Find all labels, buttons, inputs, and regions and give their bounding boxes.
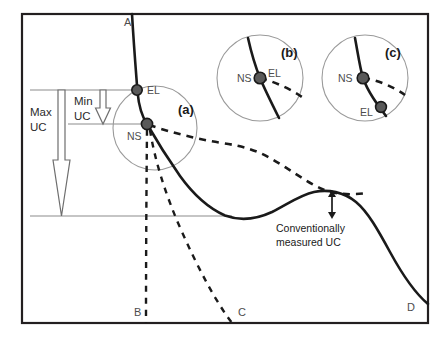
panel-b-label-ns: NS: [237, 72, 252, 84]
panel-b-label-el: EL: [268, 67, 281, 79]
diagram-canvas: Max UC Min UC EL NS (a) NS: [0, 0, 445, 340]
node-ns-main: [141, 118, 152, 129]
panel-c-label-el: EL: [360, 106, 373, 118]
figure-root: Max UC Min UC EL NS (a) NS: [0, 0, 445, 340]
node-el-main-label: EL: [147, 84, 160, 96]
endpoint-label-b: B: [134, 306, 141, 318]
endpoint-label-a: A: [124, 16, 132, 28]
panel-c-label: (c): [385, 45, 401, 60]
endpoint-label-d: D: [407, 301, 415, 313]
caption-stub: [1, 324, 17, 337]
panel-b-label: (b): [281, 45, 298, 60]
node-el-main: [132, 85, 142, 95]
conventional-uc-note-line2: measured UC: [276, 236, 341, 248]
endpoint-label-c: C: [238, 306, 246, 318]
panel-c-label-ns: NS: [338, 72, 353, 84]
node-ns-main-label: NS: [127, 130, 142, 142]
min-uc-label-line2: UC: [74, 110, 91, 122]
panel-b-node-ns-el: [254, 72, 266, 84]
figure-frame: [22, 14, 428, 323]
max-uc-label-line2: UC: [30, 121, 47, 133]
panel-c-node-ns: [357, 72, 369, 84]
conventional-uc-note-line1: Conventionally: [276, 222, 346, 234]
max-uc-label-line1: Max: [30, 106, 52, 118]
min-uc-label-line1: Min: [74, 95, 93, 107]
panel-a-label: (a): [178, 102, 194, 117]
panel-c-node-el: [376, 102, 387, 113]
